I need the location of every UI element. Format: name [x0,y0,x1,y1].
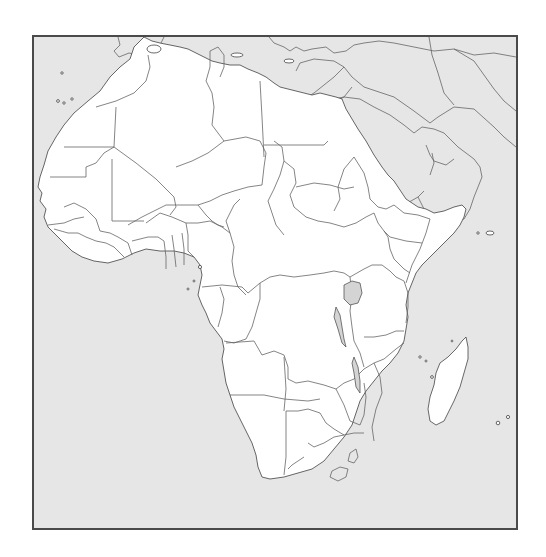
africa-outline-map [34,37,516,528]
swaziland [348,449,358,463]
madagascar [428,337,468,425]
africa-mainland [38,37,466,479]
lesotho [330,467,348,481]
map-frame [32,35,518,530]
africa-coastline [38,37,466,479]
